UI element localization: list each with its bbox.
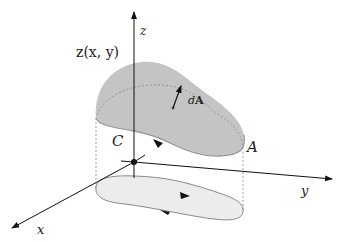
surface-function-label: z(x, y) bbox=[76, 45, 119, 59]
y-axis bbox=[134, 162, 332, 179]
boundary-arrow bbox=[153, 139, 163, 148]
y-axis-label: y bbox=[301, 184, 308, 197]
area-element-label: dA bbox=[188, 95, 204, 106]
origin-point bbox=[131, 159, 137, 165]
area-element-d: d bbox=[188, 94, 195, 107]
diagram-canvas bbox=[0, 0, 341, 242]
surface-area-label: A bbox=[247, 140, 258, 155]
area-element-A: A bbox=[195, 94, 204, 107]
z-axis-label: z bbox=[140, 25, 146, 37]
boundary-curve-label: C bbox=[112, 134, 123, 149]
projected-region bbox=[96, 176, 243, 220]
x-axis-label: x bbox=[37, 223, 44, 236]
